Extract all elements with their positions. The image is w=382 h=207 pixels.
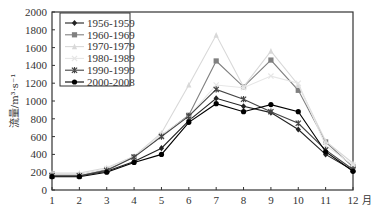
y-tick-label: 200 — [31, 166, 48, 178]
y-axis-title: 流量/m³·s⁻¹ — [8, 74, 20, 128]
legend: 1956-19591960-19691970-19791980-19891990… — [60, 13, 135, 88]
x-tick-label: 3 — [104, 194, 110, 206]
x-tick-label: 8 — [241, 194, 247, 206]
y-tick-label: 0 — [42, 184, 48, 196]
x-axis-title: 月 — [362, 195, 372, 206]
x-tick-label: 1 — [49, 194, 55, 206]
x-tick-label: 6 — [186, 194, 192, 206]
x-tick-label: 10 — [293, 194, 305, 206]
x-tick-label: 5 — [159, 194, 165, 206]
y-tick-label: 1400 — [25, 59, 48, 71]
x-tick-label: 2 — [77, 194, 83, 206]
y-tick-label: 800 — [31, 113, 48, 125]
legend-label: 1970-1979 — [87, 40, 135, 52]
svg-text:流量/m³·s⁻¹: 流量/m³·s⁻¹ — [8, 74, 20, 128]
legend-label: 1980-1989 — [87, 52, 135, 64]
legend-label: 2000-2008 — [87, 76, 135, 88]
legend-label: 1990-1999 — [87, 64, 135, 76]
x-tick-label: 12 — [348, 194, 359, 206]
y-tick-label: 600 — [31, 131, 48, 143]
y-tick-label: 1200 — [25, 77, 48, 89]
x-tick-label: 4 — [131, 194, 137, 206]
y-tick-label: 1600 — [25, 42, 48, 54]
y-tick-label: 400 — [31, 148, 48, 160]
x-tick-label: 7 — [213, 194, 219, 206]
legend-label: 1956-1959 — [87, 17, 135, 29]
y-axis-ticks: 0200400600800100012001400160018002000 — [25, 6, 55, 196]
y-tick-label: 1000 — [25, 95, 48, 107]
y-tick-label: 1800 — [25, 24, 48, 36]
x-tick-label: 11 — [320, 194, 331, 206]
y-tick-label: 2000 — [25, 6, 48, 18]
line-chart: 流量/m³·s⁻¹ 020040060080010001200140016001… — [0, 0, 382, 207]
legend-label: 1960-1969 — [87, 29, 135, 41]
x-tick-label: 9 — [268, 194, 274, 206]
